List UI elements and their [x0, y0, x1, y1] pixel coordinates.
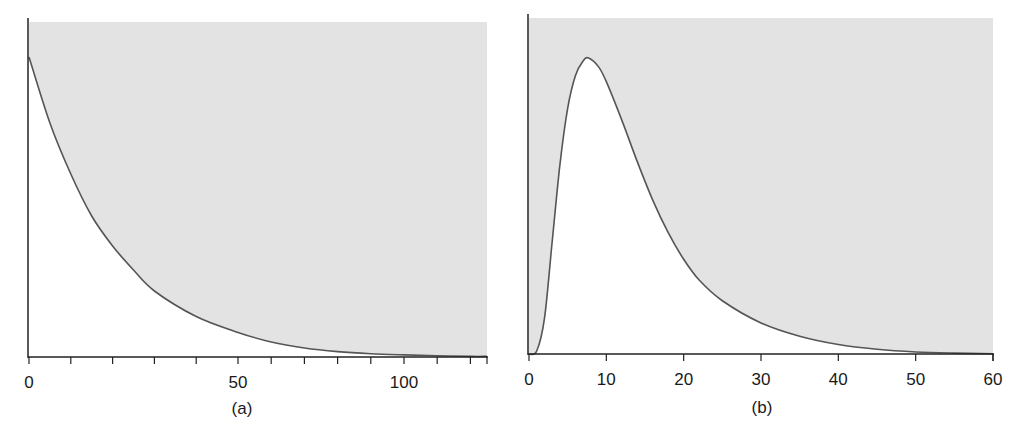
- x-tick-label: 30: [752, 370, 771, 389]
- panel-b: 0102030405060(b): [510, 0, 1020, 444]
- panel-label: (a): [232, 399, 253, 418]
- x-tick-label: 0: [524, 370, 533, 389]
- x-tick-label: 100: [390, 373, 418, 392]
- x-tick-label: 50: [906, 370, 925, 389]
- chart-b: 0102030405060(b): [510, 0, 1020, 444]
- panel-a: 050100(a): [0, 0, 510, 444]
- x-tick-label: 10: [597, 370, 616, 389]
- x-tick-label: 0: [24, 373, 33, 392]
- panel-label: (b): [752, 398, 773, 417]
- x-tick-label: 60: [984, 370, 1003, 389]
- x-tick-label: 50: [229, 373, 248, 392]
- chart-a: 050100(a): [0, 0, 510, 444]
- x-tick-label: 40: [829, 370, 848, 389]
- x-tick-label: 20: [674, 370, 693, 389]
